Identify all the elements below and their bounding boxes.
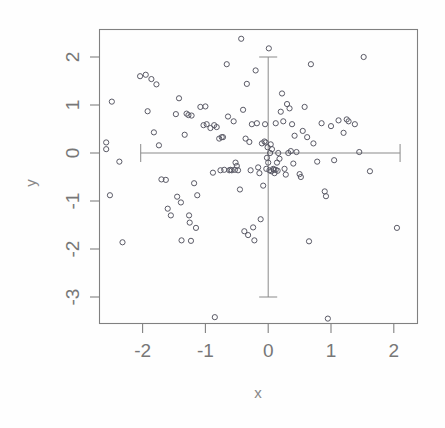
- data-point: [289, 122, 294, 127]
- x-tick-label: 2: [389, 340, 400, 361]
- data-point: [222, 167, 227, 172]
- y-tick-label: 2: [62, 52, 83, 63]
- data-point: [251, 225, 256, 230]
- data-point: [244, 81, 249, 86]
- data-point: [302, 104, 307, 109]
- data-point: [212, 315, 217, 320]
- data-point: [291, 161, 296, 166]
- data-point: [292, 133, 297, 138]
- data-point: [182, 132, 187, 137]
- x-axis-ticks: -2-1012: [134, 324, 399, 361]
- data-point: [117, 159, 122, 164]
- y-tick-label: 1: [62, 100, 83, 111]
- data-point: [233, 160, 238, 165]
- data-point: [367, 169, 372, 174]
- data-point: [178, 200, 183, 205]
- data-point: [186, 213, 191, 218]
- plot-frame: [100, 30, 418, 324]
- data-point: [198, 104, 203, 109]
- data-point: [394, 225, 399, 230]
- vertical-whisker: [259, 57, 277, 297]
- data-point: [273, 121, 278, 126]
- data-point: [308, 62, 313, 67]
- data-point: [361, 54, 366, 59]
- data-point: [156, 143, 161, 148]
- x-tick-label: 1: [326, 340, 337, 361]
- data-point: [237, 187, 242, 192]
- data-point: [224, 62, 229, 67]
- data-point: [277, 156, 282, 161]
- data-point: [256, 165, 261, 170]
- data-point: [279, 91, 284, 96]
- data-point: [104, 147, 109, 152]
- y-axis-ticks: 210-1-2-3: [62, 52, 100, 306]
- x-tick-label: -1: [197, 340, 214, 361]
- data-point: [283, 172, 288, 177]
- data-point: [187, 220, 192, 225]
- data-point: [305, 135, 310, 140]
- data-point: [248, 168, 253, 173]
- y-axis-label: y: [22, 179, 39, 187]
- data-point: [231, 119, 236, 124]
- data-point: [341, 130, 346, 135]
- data-point: [254, 121, 259, 126]
- data-point: [145, 109, 150, 114]
- data-point: [336, 118, 341, 123]
- data-point: [262, 122, 267, 127]
- data-point: [240, 107, 245, 112]
- data-point: [300, 128, 305, 133]
- data-point: [328, 124, 333, 129]
- data-point: [281, 119, 286, 124]
- data-point: [246, 232, 251, 237]
- data-points: [104, 36, 400, 321]
- data-point: [257, 171, 262, 176]
- data-point: [315, 159, 320, 164]
- y-tick-label: -1: [62, 193, 83, 210]
- data-point: [325, 316, 330, 321]
- data-point: [192, 181, 197, 186]
- data-point: [107, 193, 112, 198]
- data-point: [165, 206, 170, 211]
- y-tick-label: 0: [62, 148, 83, 159]
- data-point: [261, 183, 266, 188]
- data-point: [266, 46, 271, 51]
- data-point: [175, 194, 180, 199]
- data-point: [294, 149, 299, 154]
- data-point: [143, 72, 148, 77]
- x-axis-label: x: [254, 384, 262, 401]
- data-point: [176, 96, 181, 101]
- data-point: [109, 99, 114, 104]
- data-point: [332, 158, 337, 163]
- data-point: [104, 140, 109, 145]
- data-point: [253, 68, 258, 73]
- data-point: [287, 106, 292, 111]
- data-point: [319, 121, 324, 126]
- data-point: [282, 166, 287, 171]
- data-point: [151, 130, 156, 135]
- data-point: [137, 74, 142, 79]
- data-point: [225, 114, 230, 119]
- data-point: [357, 149, 362, 154]
- data-point: [193, 225, 198, 230]
- plot-canvas: -2-1012 210-1-2-3 x y: [0, 0, 445, 428]
- data-point: [120, 240, 125, 245]
- data-point: [203, 104, 208, 109]
- data-point: [323, 194, 328, 199]
- data-point: [173, 112, 178, 117]
- y-tick-label: -2: [62, 241, 83, 258]
- data-point: [252, 238, 257, 243]
- x-tick-label: -2: [134, 340, 151, 361]
- data-point: [239, 36, 244, 41]
- data-point: [311, 141, 316, 146]
- data-point: [247, 139, 252, 144]
- data-point: [306, 239, 311, 244]
- data-point: [189, 113, 194, 118]
- data-point: [168, 213, 173, 218]
- data-point: [278, 109, 283, 114]
- data-point: [352, 122, 357, 127]
- data-point: [154, 82, 159, 87]
- data-point: [195, 193, 200, 198]
- data-point: [249, 122, 254, 127]
- data-point: [210, 170, 215, 175]
- x-tick-label: 0: [263, 340, 274, 361]
